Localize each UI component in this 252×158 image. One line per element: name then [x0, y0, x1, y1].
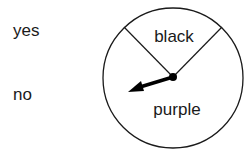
pointer-arrow-icon — [128, 73, 177, 92]
section-label-black: black — [154, 27, 194, 46]
section-label-purple: purple — [153, 100, 200, 119]
spinner: black purple — [0, 0, 252, 158]
